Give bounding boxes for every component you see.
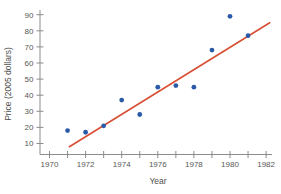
y-tick-label: 80 (25, 27, 34, 36)
y-tick-label: 90 (25, 11, 34, 20)
plot-area: 1020304050607080901970197219741976197819… (0, 0, 281, 194)
data-point (192, 85, 197, 90)
x-axis-title: Year (149, 176, 166, 186)
data-point (65, 128, 70, 133)
y-tick-label: 30 (25, 107, 34, 116)
x-tick-label: 1976 (149, 160, 167, 169)
x-tick-label: 1980 (221, 160, 239, 169)
data-point (246, 33, 251, 38)
y-tick-label: 50 (25, 75, 34, 84)
data-point (210, 48, 215, 53)
data-point (119, 98, 124, 103)
data-point (228, 14, 233, 19)
data-point (83, 130, 88, 135)
x-tick-label: 1974 (113, 160, 131, 169)
y-tick-label: 40 (25, 91, 34, 100)
data-point (173, 83, 178, 88)
trend-line (69, 23, 269, 147)
data-point (137, 112, 142, 117)
x-tick-label: 1978 (185, 160, 203, 169)
data-point (101, 123, 106, 128)
x-tick-label: 1982 (257, 160, 275, 169)
y-tick-label: 60 (25, 59, 34, 68)
scatter-chart-figure: 1020304050607080901970197219741976197819… (0, 0, 281, 194)
y-tick-label: 20 (25, 123, 34, 132)
y-tick-label: 10 (25, 139, 34, 148)
data-point (155, 85, 160, 90)
y-axis-title: Price (2005 dollars) (3, 47, 13, 121)
x-tick-label: 1970 (41, 160, 59, 169)
y-tick-label: 70 (25, 43, 34, 52)
x-tick-label: 1972 (77, 160, 95, 169)
